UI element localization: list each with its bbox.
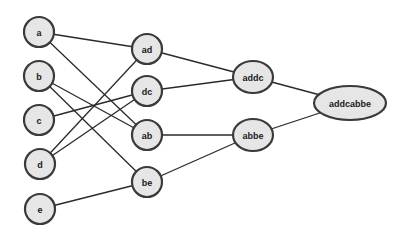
edge-d-ad [40, 49, 147, 164]
edge-a-ab [39, 32, 147, 135]
node-b: b [24, 61, 54, 91]
node-be: be [132, 167, 162, 197]
node-abbe: abbe [233, 119, 273, 151]
merge-tree-diagram: abcdeaddcabbeaddcabbeaddcabbe [0, 0, 406, 236]
node-label: ab [142, 131, 153, 141]
edge-e-be [40, 182, 147, 209]
node-d: d [25, 149, 55, 179]
nodes-group: abcdeaddcabbeaddcabbeaddcabbe [24, 17, 386, 224]
node-c: c [24, 105, 54, 135]
node-ad: ad [132, 34, 162, 64]
node-label: b [36, 72, 42, 82]
node-label: dc [142, 87, 153, 97]
node-label: c [36, 116, 41, 126]
edge-d-dc [40, 91, 147, 164]
node-label: abbe [242, 131, 263, 141]
node-ab: ab [132, 120, 162, 150]
edge-a-ad [39, 32, 147, 49]
node-label: e [37, 205, 42, 215]
node-e: e [25, 194, 55, 224]
node-label: d [37, 160, 43, 170]
edge-c-dc [39, 91, 147, 120]
node-addc: addc [233, 61, 273, 93]
node-label: addc [242, 73, 263, 83]
node-label: addcabbe [329, 99, 371, 109]
edges-group [39, 32, 350, 209]
node-label: be [142, 178, 153, 188]
node-addcabbe: addcabbe [314, 86, 386, 120]
node-label: ad [142, 45, 153, 55]
node-dc: dc [132, 76, 162, 106]
node-a: a [24, 17, 54, 47]
